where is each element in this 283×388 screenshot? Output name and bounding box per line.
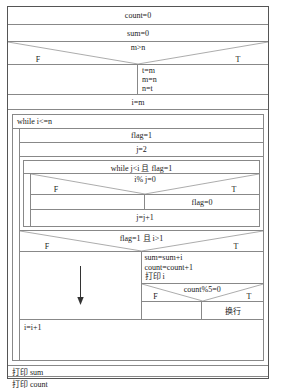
branch-label-true: T [227,185,241,194]
prime-action-block: sum=sum+i count=count+1 打印 i [142,252,264,284]
loop-inner-condition: while j<i 且 flag=1 [24,161,259,174]
loop-inner-while: while j<i 且 flag=1 i% j=0 F T [20,157,263,231]
branch-label-true: T [230,55,246,64]
statement-i-increment: i=i+1 [20,320,263,335]
swap-line-1: t=m [142,66,268,75]
branch-false-newline [142,302,203,319]
statement-text: 打印 sum [12,366,43,377]
branch-row-mod: flag=0 [31,195,259,210]
statement-i-assign-m: i=m [8,95,268,110]
condition-text: m>n [8,43,268,52]
statement-text: 打印 count [12,378,48,388]
condition-i-mod-j: i% j=0 F T [31,174,259,195]
condition-text: i% j=0 [31,175,259,184]
loop-outer-condition: while i<=n [13,115,263,129]
branch-true-swap: t=m m=n n=t [138,65,268,94]
statement-print-sum: 打印 sum [8,365,268,377]
branch-row-swap: t=m m=n n=t [8,65,268,95]
branch-true-newline: 换行 [202,302,263,319]
branch-true-body: 换行 [225,305,241,316]
ns-flowchart: count=0 sum=0 m>n F T t=m m=n n=t i=m [7,6,269,379]
prime-line-1: sum=sum+i [145,253,264,263]
loop-outer-body: flag=1 j=2 while j<i 且 flag=1 [19,129,263,360]
statement-flag-init: flag=1 [20,129,263,143]
condition-m-gt-n: m>n F T [8,42,268,65]
condition-text: flag=1 且 i>1 [20,232,263,243]
statement-text: sum=0 [127,29,149,38]
branch-true-body: flag=0 [192,198,213,207]
branch-true-prime: sum=sum+i count=count+1 打印 i count%5=0 F [142,252,264,319]
branch-label-false: F [150,292,162,301]
statement-text: i=i+1 [24,323,41,332]
branch-false-mod [31,195,145,209]
swap-line-3: n=t [142,84,268,93]
flow-arrow-icon [20,252,141,319]
branch-label-false: F [49,185,63,194]
statement-text: count=0 [125,11,151,20]
swap-line-2: m=n [142,75,268,84]
statement-j-init: j=2 [20,143,263,157]
loop-inner-body: i% j=0 F T flag=0 [30,174,259,226]
condition-is-prime: flag=1 且 i>1 F T [20,231,263,252]
statement-j-increment: j=j+1 [31,210,259,225]
loop-outer-while: while i<=n flag=1 j=2 while j<i 且 flag=1 [8,110,268,365]
statement-count-init: count=0 [8,7,268,25]
prime-line-3: 打印 i [145,272,264,282]
statement-print-count: 打印 count [8,377,268,388]
statement-sum-init: sum=0 [8,25,268,42]
condition-count-mod-5: count%5=0 F T [142,284,264,302]
prime-line-2: count=count+1 [145,263,264,273]
statement-text: j=2 [136,145,147,154]
branch-false-body [142,302,202,304]
branch-true-mod: flag=0 [145,195,259,209]
branch-label-true: T [243,292,255,301]
branch-label-false: F [40,242,54,251]
branch-label-true: T [229,242,243,251]
branch-false-swap [8,65,138,94]
branch-label-false: F [30,55,46,64]
branch-false-body [31,195,144,197]
statement-text: i=m [132,98,145,107]
statement-text: j=j+1 [136,213,153,222]
branch-false-body [8,65,137,67]
branch-row-prime: sum=sum+i count=count+1 打印 i count%5=0 F [20,252,263,320]
statement-text: flag=1 [131,131,152,140]
branch-row-newline: 换行 [142,302,264,319]
branch-false-prime [20,252,142,319]
